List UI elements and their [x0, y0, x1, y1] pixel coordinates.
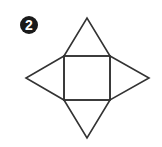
pyramid-net-diagram [0, 0, 162, 147]
top-triangle [64, 18, 110, 56]
bottom-triangle [64, 100, 110, 138]
base-square [64, 56, 110, 100]
left-triangle [26, 56, 64, 100]
figure-canvas: 2 [0, 0, 162, 147]
right-triangle [110, 56, 149, 100]
